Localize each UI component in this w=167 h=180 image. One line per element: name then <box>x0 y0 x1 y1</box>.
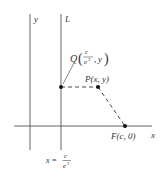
point-q-label: Q ( c e 2 , y ) <box>70 48 109 67</box>
directrix-equation: x = c e 2 <box>45 152 71 170</box>
point-p-label: P(x, y) <box>84 74 109 84</box>
q-open-paren: ( <box>78 51 83 67</box>
q-y: y <box>97 54 102 64</box>
directrix-label: L <box>64 14 70 24</box>
point-p <box>96 85 100 89</box>
point-q <box>59 85 63 89</box>
q-leader-line <box>63 63 74 84</box>
q-close-paren: ) <box>104 51 109 67</box>
x-axis-label: x <box>150 130 155 140</box>
q-x-denominator-exp: 2 <box>88 57 91 62</box>
directrix-eq-numerator: c <box>64 152 68 160</box>
q-name: Q <box>70 53 78 64</box>
point-f <box>123 124 127 128</box>
q-x-numerator: c <box>85 48 89 56</box>
point-f-label: F(c, 0) <box>110 131 136 141</box>
q-comma: , <box>94 54 96 64</box>
directrix-eq-lhs: x = <box>45 156 57 165</box>
y-axis-label: y <box>33 14 38 24</box>
directrix-eq-denominator-exp: 2 <box>67 161 70 166</box>
diagram-canvas: y L x Q ( c e 2 , y ) P(x, y) F(c, 0) x … <box>0 0 167 180</box>
q-x-denominator: e <box>84 58 87 66</box>
directrix-eq-denominator: e <box>63 162 66 170</box>
dashed-segment-pf <box>98 87 125 126</box>
